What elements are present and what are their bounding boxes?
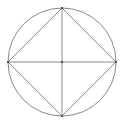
point-bottom [61,115,63,117]
point-top [61,7,63,9]
point-center [61,61,63,63]
point-left [7,61,9,63]
inscribed-square-diagram [0,0,122,123]
point-right [115,61,117,63]
